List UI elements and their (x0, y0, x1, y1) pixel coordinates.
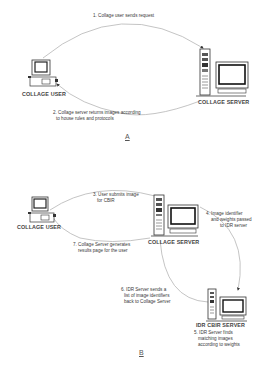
step-6-label-line2: list of image identifiers (124, 293, 169, 298)
section-label-a: A (125, 133, 130, 140)
step-4-label-line2: and weights passed (211, 217, 252, 222)
desktop-computer-icon (28, 195, 60, 225)
step-4-label-line1: 4. Image identifier (206, 211, 243, 216)
collage-user-label-a: COLLAGE USER (22, 91, 66, 97)
section-label-b: B (139, 349, 144, 356)
desktop-computer-icon (28, 58, 60, 90)
step-6-label-line3: back to Collage Server (124, 299, 170, 304)
step-3-label-line1: 3. User submits image (93, 192, 139, 197)
collage-server-label-a: COLLAGE SERVER (198, 99, 249, 105)
step-5-label-line1: 5. IDR Server finds (194, 330, 233, 335)
step-2-label-line1: 2. Collage server returns images accordi… (53, 110, 141, 115)
step-4-label-line3: to IDR server (220, 223, 247, 228)
idr-server-computer-icon (205, 288, 251, 324)
server-computer-icon (150, 193, 202, 239)
step-5-label-line3: according to weights (198, 342, 240, 347)
step-5-label-line2: matching images (198, 336, 233, 341)
step-2-label-line2: to house rules and protocols (56, 116, 114, 121)
arc-b-results (52, 216, 150, 242)
step-7-label-line2: results page for the user (78, 248, 128, 253)
collage-server-label-b: COLLAGE SERVER (148, 239, 199, 245)
idr-server-label: IDR CBIR SERVER (196, 322, 245, 328)
collage-user-label-b: COLLAGE USER (17, 224, 61, 230)
step-6-label-line1: 6. IDR Server sends a (121, 287, 166, 292)
step-7-label-line1: 7. Collage Server generates (73, 242, 130, 247)
step-3-label-line2: for CBIR (97, 198, 115, 203)
arc-a-request (43, 24, 203, 58)
step-1-label: 1. Collage user sends request (93, 13, 154, 18)
server-computer-icon (192, 46, 254, 100)
